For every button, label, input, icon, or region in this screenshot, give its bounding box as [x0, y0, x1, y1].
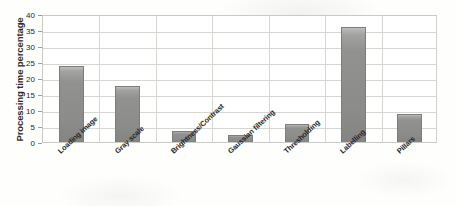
gridline-vertical: [156, 16, 157, 142]
gridline-horizontal: [43, 96, 436, 97]
y-axis-tick-label: 20: [11, 75, 35, 84]
bar-chart: Processing time percentage 0510152025303…: [0, 0, 456, 206]
gridline-vertical: [99, 16, 100, 142]
y-axis-tick-label: 40: [11, 11, 35, 20]
y-axis-tick-label: 15: [11, 91, 35, 100]
y-axis-tick-mark: [38, 143, 42, 144]
y-axis-tick-label: 35: [11, 27, 35, 36]
gridline-horizontal: [43, 48, 436, 49]
gridline-vertical: [382, 16, 383, 142]
gridline-horizontal: [43, 112, 436, 113]
bar: [341, 27, 366, 142]
y-axis-tick-label: 0: [11, 139, 35, 148]
gridline-horizontal: [43, 80, 436, 81]
gridline-horizontal: [43, 128, 436, 129]
y-axis-tick-label: 5: [11, 123, 35, 132]
y-axis-tick-label: 30: [11, 43, 35, 52]
y-axis-tick-label: 25: [11, 59, 35, 68]
gridline-horizontal: [43, 64, 436, 65]
plot-area: [42, 15, 437, 143]
gridline-vertical: [212, 16, 213, 142]
gridline-horizontal: [43, 32, 436, 33]
gridline-vertical: [325, 16, 326, 142]
gridline-vertical: [269, 16, 270, 142]
y-axis-tick-label: 10: [11, 107, 35, 116]
